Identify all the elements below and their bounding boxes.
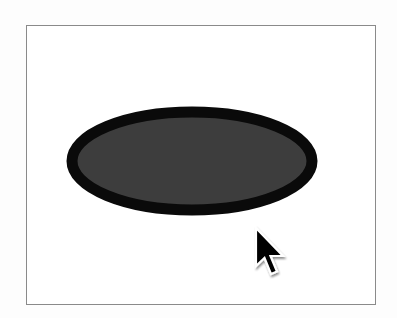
drawing-layer [0, 0, 397, 318]
stage [0, 0, 397, 318]
ellipse-shape[interactable] [72, 112, 312, 210]
arrow-pointer-icon [250, 224, 290, 282]
